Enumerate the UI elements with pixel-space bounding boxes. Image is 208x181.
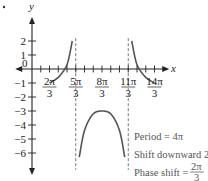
x-tick-label-den: 3 — [73, 87, 79, 99]
annotation-phase: Phase shift = — [134, 167, 188, 178]
x-axis-arrow-right — [162, 66, 169, 72]
x-tick-label-num: 11π — [120, 75, 137, 87]
annotation-shift: Shift downward 2 — [134, 149, 208, 160]
curve-middle-branch — [79, 111, 125, 157]
x-axis-label: x — [170, 62, 176, 74]
y-axis-arrow-down — [29, 168, 35, 175]
y-tick-label: −6 — [14, 147, 26, 159]
x-tick-label-den: 3 — [126, 87, 132, 99]
annotation-phase-den: 3 — [194, 172, 199, 181]
annotation-period: Period = 4π — [134, 131, 184, 142]
x-tick-label-den: 3 — [152, 87, 158, 99]
bullet-dot — [3, 6, 5, 8]
x-tick-label-num: 8π — [96, 75, 108, 87]
x-tick-label-num: 14π — [146, 75, 163, 87]
x-tick-label-den: 3 — [47, 87, 53, 99]
y-tick-label: −4 — [14, 119, 26, 131]
x-tick-label-den: 3 — [99, 87, 105, 99]
y-axis-arrow-up — [29, 17, 35, 24]
x-tick-label-num: 5π — [70, 75, 82, 87]
origin-label: 0 — [22, 57, 28, 69]
x-tick-label-num: 2π — [44, 75, 56, 87]
y-tick-label: −2 — [14, 91, 26, 103]
chart: 2π35π38π311π314π321−1−2−3−4−5−6 x y 0 Pe… — [0, 0, 208, 181]
y-tick-label: −3 — [14, 105, 26, 117]
annotation-phase-num: 2π — [191, 161, 202, 172]
y-tick-label: 2 — [21, 35, 27, 47]
y-tick-label: −1 — [14, 77, 26, 89]
y-axis-label: y — [28, 0, 34, 12]
y-tick-label: −5 — [14, 133, 26, 145]
